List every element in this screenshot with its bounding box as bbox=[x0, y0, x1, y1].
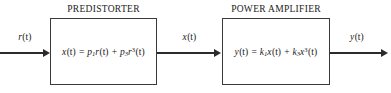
arrowhead-output bbox=[381, 49, 388, 57]
pa-term1-arg: (t) bbox=[271, 47, 281, 57]
signal-intermediate-arg: (t) bbox=[187, 32, 197, 42]
signal-intermediate-var: x bbox=[182, 32, 186, 42]
block-title-power-amplifier: POWER AMPLIFIER bbox=[222, 4, 330, 14]
signal-label-input: r(t) bbox=[2, 32, 48, 42]
arrowhead-intermediate bbox=[214, 49, 221, 57]
signal-output-arg: (t) bbox=[354, 32, 364, 42]
pa-lhs-arg: (t) bbox=[239, 47, 249, 57]
signal-input-arg: (t) bbox=[22, 32, 32, 42]
wire-input-to-predistorter bbox=[0, 52, 44, 54]
pa-term2-arg: (t) bbox=[308, 47, 318, 57]
block-title-predistorter: PREDISTORTER bbox=[50, 4, 157, 14]
arrowhead-input bbox=[43, 49, 50, 57]
pd-equals: = bbox=[78, 47, 84, 57]
pa-plus: + bbox=[284, 47, 290, 57]
block-equation-power-amplifier: y(t) = k1x(t) + k3x3(t) bbox=[222, 46, 330, 57]
pd-plus: + bbox=[111, 47, 117, 57]
wire-predistorter-to-amplifier bbox=[157, 52, 215, 54]
pd-lhs-arg: (t) bbox=[66, 47, 76, 57]
signal-label-intermediate: x(t) bbox=[161, 32, 218, 42]
block-equation-predistorter: x(t) = p1r(t) + p3r3(t) bbox=[50, 46, 157, 57]
pd-term2-arg: (t) bbox=[135, 47, 145, 57]
wire-amplifier-to-output bbox=[330, 52, 382, 54]
signal-label-output: y(t) bbox=[334, 32, 380, 42]
block-diagram: r(t) PREDISTORTER x(t) = p1r(t) + p3r3(t… bbox=[0, 0, 391, 93]
pd-term1-arg: (t) bbox=[99, 47, 109, 57]
pa-equals: = bbox=[251, 47, 257, 57]
